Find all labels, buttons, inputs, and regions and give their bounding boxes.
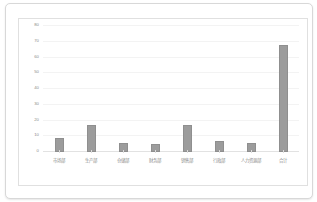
bar[interactable] bbox=[183, 125, 192, 152]
x-tick-mark bbox=[219, 150, 220, 153]
x-tick-slot bbox=[235, 150, 267, 153]
bar-slot bbox=[107, 26, 139, 152]
x-tick-mark bbox=[155, 150, 156, 153]
x-tick-slot bbox=[107, 150, 139, 153]
bar-slot bbox=[75, 26, 107, 152]
x-tick-mark bbox=[59, 150, 60, 153]
x-axis-ticks bbox=[43, 150, 299, 153]
y-axis-tick-label: 70 bbox=[34, 39, 39, 43]
x-tick-slot bbox=[43, 150, 75, 153]
y-axis-tick-label: 50 bbox=[34, 70, 39, 74]
x-label-slot: 市场部 bbox=[43, 155, 75, 163]
y-axis-tick-label: 20 bbox=[34, 117, 39, 121]
x-axis-category-label: 合计 bbox=[273, 158, 293, 163]
bar-slot bbox=[203, 26, 235, 152]
y-axis-tick-label: 80 bbox=[34, 23, 39, 27]
y-axis-tick-label: 0 bbox=[37, 149, 39, 153]
chart-plot-wrapper: 01020304050607080 市场部生产部仓储部财务部销售部行政部人力资源… bbox=[19, 19, 307, 185]
x-tick-slot bbox=[139, 150, 171, 153]
x-tick-mark bbox=[91, 150, 92, 153]
x-tick-slot bbox=[171, 150, 203, 153]
x-axis-category-label: 仓储部 bbox=[113, 158, 133, 163]
screenshot-root: 01020304050607080 市场部生产部仓储部财务部销售部行政部人力资源… bbox=[0, 0, 317, 202]
x-tick-mark bbox=[283, 150, 284, 153]
plot-area: 01020304050607080 bbox=[43, 26, 299, 152]
bar-slot bbox=[235, 26, 267, 152]
y-axis-tick-label: 30 bbox=[34, 102, 39, 106]
y-axis-tick-label: 10 bbox=[34, 133, 39, 137]
x-axis-category-label: 人力资源部 bbox=[241, 158, 261, 163]
x-tick-slot bbox=[75, 150, 107, 153]
bar-slot bbox=[43, 26, 75, 152]
x-axis-labels: 市场部生产部仓储部财务部销售部行政部人力资源部合计 bbox=[43, 155, 299, 179]
document-page: 01020304050607080 市场部生产部仓储部财务部销售部行政部人力资源… bbox=[5, 3, 313, 199]
y-axis-tick-label: 60 bbox=[34, 54, 39, 58]
x-tick-slot bbox=[267, 150, 299, 153]
x-label-slot: 财务部 bbox=[139, 155, 171, 163]
chart-object[interactable]: 01020304050607080 市场部生产部仓储部财务部销售部行政部人力资源… bbox=[18, 18, 308, 186]
bars-layer bbox=[43, 26, 299, 152]
y-axis-tick-label: 40 bbox=[34, 86, 39, 90]
bar-slot bbox=[267, 26, 299, 152]
x-tick-slot bbox=[203, 150, 235, 153]
x-axis-category-label: 财务部 bbox=[145, 158, 165, 163]
x-axis-category-label: 生产部 bbox=[81, 158, 101, 163]
x-label-slot: 合计 bbox=[267, 155, 299, 163]
x-axis-category-label: 销售部 bbox=[177, 158, 197, 163]
x-tick-mark bbox=[187, 150, 188, 153]
bar-slot bbox=[171, 26, 203, 152]
x-label-slot: 销售部 bbox=[171, 155, 203, 163]
bar[interactable] bbox=[87, 125, 96, 152]
x-label-slot: 人力资源部 bbox=[235, 155, 267, 163]
x-tick-mark bbox=[251, 150, 252, 153]
bar-slot bbox=[139, 26, 171, 152]
x-tick-mark bbox=[123, 150, 124, 153]
x-axis-category-label: 市场部 bbox=[49, 158, 69, 163]
x-label-slot: 行政部 bbox=[203, 155, 235, 163]
x-axis-category-label: 行政部 bbox=[209, 158, 229, 163]
x-label-slot: 生产部 bbox=[75, 155, 107, 163]
x-label-slot: 仓储部 bbox=[107, 155, 139, 163]
bar[interactable] bbox=[279, 45, 288, 152]
